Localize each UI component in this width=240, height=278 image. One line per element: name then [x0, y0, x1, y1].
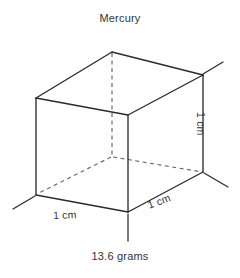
dimension-extension-ticks — [13, 62, 228, 241]
figure-caption-mass: 13.6 grams — [0, 250, 240, 262]
bottom-edge-front-left — [36, 195, 128, 212]
dimension-label-height-right: 1 cm — [195, 112, 207, 136]
mercury-cube-figure: Mercury 1 cm 1 cm 1 cm 13.6 grams — [0, 0, 240, 278]
cube-diagram-svg — [0, 0, 240, 278]
hidden-edge-to-bottom-right — [113, 157, 202, 172]
tick-top-right — [203, 62, 223, 74]
top-edge-back-right — [112, 52, 203, 75]
top-edge-front-right — [128, 75, 203, 115]
top-edge-back-left — [36, 52, 112, 98]
cube-visible-edges — [36, 52, 203, 212]
hidden-edge-to-bottom-left — [37, 157, 111, 194]
tick-bottom-right — [204, 173, 228, 187]
cube-hidden-edges — [37, 53, 202, 194]
tick-bottom-left — [13, 196, 35, 209]
dimension-label-width-left: 1 cm — [53, 208, 77, 221]
top-edge-front-left — [36, 98, 128, 115]
